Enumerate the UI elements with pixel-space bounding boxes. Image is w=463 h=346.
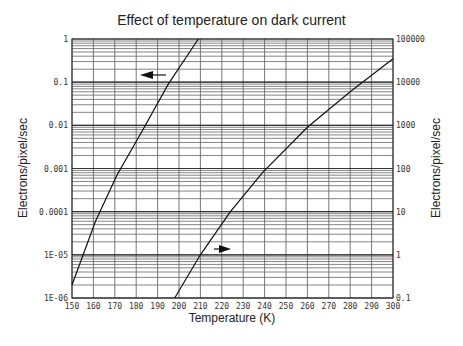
y-right-axis-ticks: 1000001000010001001010.1 bbox=[396, 35, 425, 303]
x-axis-ticks: 1501601701801902002102202302402502602702… bbox=[65, 302, 401, 311]
arrow-left-icon bbox=[140, 71, 153, 79]
x-tick-label: 230 bbox=[236, 302, 251, 311]
x-tick-label: 280 bbox=[343, 302, 358, 311]
y-right-tick-label: 0.1 bbox=[396, 294, 411, 303]
x-tick-label: 270 bbox=[322, 302, 337, 311]
x-tick-label: 210 bbox=[193, 302, 208, 311]
y-left-tick-label: 1E-06 bbox=[44, 294, 68, 303]
y-right-tick-label: 1 bbox=[396, 251, 401, 260]
x-tick-label: 220 bbox=[215, 302, 230, 311]
y-right-tick-label: 1000 bbox=[396, 121, 415, 130]
y-left-tick-label: 1E-05 bbox=[44, 251, 68, 260]
x-tick-label: 190 bbox=[150, 302, 165, 311]
x-tick-label: 150 bbox=[65, 302, 80, 311]
x-tick-label: 240 bbox=[257, 302, 272, 311]
y-right-tick-label: 100000 bbox=[396, 35, 425, 44]
arrow-right-icon bbox=[219, 245, 231, 253]
x-tick-label: 180 bbox=[129, 302, 144, 311]
y-left-tick-label: 0.001 bbox=[44, 165, 68, 174]
x-tick-label: 200 bbox=[172, 302, 187, 311]
x-axis-label: Temperature (K) bbox=[189, 311, 276, 325]
x-tick-label: 160 bbox=[86, 302, 101, 311]
x-tick-label: 170 bbox=[108, 302, 123, 311]
y-left-axis-label: Electrons/pixel/sec bbox=[16, 118, 30, 218]
y-right-tick-label: 10000 bbox=[396, 78, 420, 87]
chart-plot: 1501601701801902002102202302402502602702… bbox=[0, 0, 463, 346]
x-tick-label: 290 bbox=[364, 302, 379, 311]
x-tick-label: 300 bbox=[386, 302, 401, 311]
y-right-tick-label: 10 bbox=[396, 208, 406, 217]
y-left-tick-label: 0.1 bbox=[54, 78, 69, 87]
y-left-axis-ticks: 10.10.010.0010.00011E-051E-06 bbox=[39, 35, 68, 303]
axis-arrows bbox=[140, 71, 231, 253]
y-right-axis-label: Electrons/pixel/sec bbox=[429, 118, 443, 218]
y-left-tick-label: 1 bbox=[63, 35, 68, 44]
x-tick-label: 260 bbox=[300, 302, 315, 311]
x-tick-label: 250 bbox=[279, 302, 294, 311]
y-left-tick-label: 0.0001 bbox=[39, 208, 68, 217]
y-left-tick-label: 0.01 bbox=[49, 121, 68, 130]
y-right-tick-label: 100 bbox=[396, 165, 411, 174]
